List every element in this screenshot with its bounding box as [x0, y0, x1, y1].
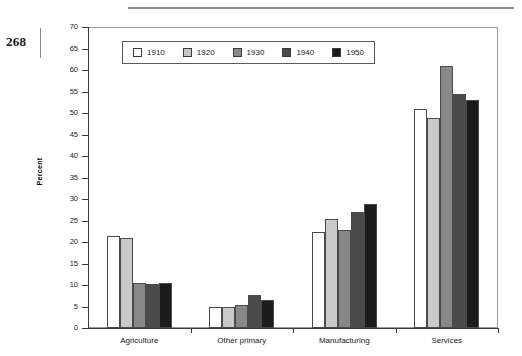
bar — [427, 118, 440, 328]
bar — [261, 300, 274, 328]
y-axis-tick-label: 35 — [70, 174, 78, 182]
legend-swatch — [282, 48, 291, 57]
bar — [235, 305, 248, 328]
y-axis-line — [88, 27, 89, 329]
y-axis-tick-label: 60 — [70, 66, 78, 74]
y-axis-tick — [82, 92, 88, 93]
legend-entry: 1950 — [332, 48, 364, 57]
y-axis-title: Percent — [36, 127, 43, 217]
y-axis-tick-label: 55 — [70, 88, 78, 96]
legend-swatch — [233, 48, 242, 57]
legend-swatch — [183, 48, 192, 57]
x-axis-tick — [396, 328, 397, 333]
y-axis-tick — [82, 285, 88, 286]
y-axis-tick — [82, 49, 88, 50]
legend: 19101920193019401950 — [122, 41, 375, 64]
bar — [351, 212, 364, 328]
x-axis-tick — [498, 328, 499, 333]
y-axis-tick — [82, 221, 88, 222]
bar — [222, 307, 235, 329]
y-axis-tick — [82, 156, 88, 157]
bar — [107, 236, 120, 328]
bar — [364, 204, 377, 328]
legend-swatch — [133, 48, 142, 57]
bar-chart-figure: Percent 0510152025303540455055606570 Agr… — [0, 0, 522, 356]
bar — [414, 109, 427, 328]
legend-label: 1920 — [197, 48, 215, 57]
legend-label: 1950 — [346, 48, 364, 57]
y-axis-tick — [82, 27, 88, 28]
legend-label: 1940 — [296, 48, 314, 57]
y-axis-tick-label: 40 — [70, 152, 78, 160]
y-axis-tick-label: 15 — [70, 260, 78, 268]
y-axis-tick — [82, 328, 88, 329]
legend-entry: 1910 — [133, 48, 165, 57]
y-axis-tick — [82, 199, 88, 200]
y-axis-tick-label: 65 — [70, 45, 78, 53]
bar — [248, 295, 261, 328]
bar — [133, 283, 146, 328]
y-axis-tick — [82, 70, 88, 71]
bar — [466, 100, 479, 328]
y-axis-tick — [82, 135, 88, 136]
legend-entry: 1940 — [282, 48, 314, 57]
y-axis-tick — [82, 113, 88, 114]
bar — [146, 284, 159, 328]
x-axis-category-label: Services — [387, 336, 507, 345]
legend-entry: 1930 — [233, 48, 265, 57]
bar — [159, 283, 172, 328]
x-axis-tick — [293, 328, 294, 333]
y-axis-tick-label: 45 — [70, 131, 78, 139]
y-axis-tick — [82, 178, 88, 179]
legend-label: 1930 — [247, 48, 265, 57]
bar — [120, 238, 133, 328]
y-axis-tick-label: 25 — [70, 217, 78, 225]
y-axis-tick-label: 10 — [70, 281, 78, 289]
bar — [325, 219, 338, 328]
bar — [440, 66, 453, 328]
y-axis-tick-label: 20 — [70, 238, 78, 246]
legend-entry: 1920 — [183, 48, 215, 57]
y-axis-tick-label: 5 — [74, 303, 78, 311]
y-axis-tick — [82, 242, 88, 243]
bar — [453, 94, 466, 328]
bar — [312, 232, 325, 328]
legend-label: 1910 — [147, 48, 165, 57]
y-axis-tick-label: 0 — [74, 324, 78, 332]
x-axis-tick — [191, 328, 192, 333]
bar — [338, 230, 351, 328]
bar — [209, 307, 222, 329]
y-axis-tick-label: 30 — [70, 195, 78, 203]
legend-swatch — [332, 48, 341, 57]
y-axis-tick-label: 70 — [70, 23, 78, 31]
y-axis-tick — [82, 307, 88, 308]
y-axis-tick-label: 50 — [70, 109, 78, 117]
y-axis-tick — [82, 264, 88, 265]
